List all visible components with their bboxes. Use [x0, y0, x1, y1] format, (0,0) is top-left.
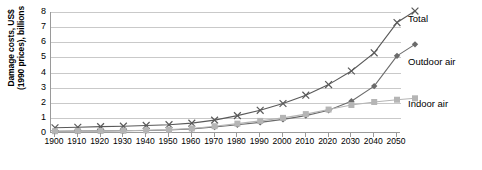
x-axis-tick-mark [54, 133, 55, 137]
x-axis-tick-mark [282, 133, 283, 137]
x-axis-tick-mark [168, 133, 169, 137]
chart-container: Damage costs, US$ (1990 prices), billion… [0, 0, 482, 170]
data-point-marker [280, 115, 286, 121]
y-axis-tick-label: 7 [20, 22, 46, 31]
data-point-marker [326, 107, 332, 113]
x-axis-tick-mark [236, 133, 237, 137]
legend-label-total: Total [408, 14, 428, 24]
y-axis-title-line-1: Damage costs, US$ [6, 0, 16, 108]
y-axis-tick-label: 4 [20, 68, 46, 77]
data-point-marker [412, 41, 418, 47]
x-axis-tick-mark [77, 133, 78, 137]
plot-area [50, 12, 400, 133]
x-axis-tick-mark [191, 133, 192, 137]
x-axis-tick-mark [396, 133, 397, 137]
data-point-marker [120, 128, 126, 134]
x-axis-tick-mark [259, 133, 260, 137]
series-total [52, 8, 419, 131]
x-axis-tick-mark [350, 133, 351, 137]
data-point-marker [143, 127, 149, 133]
data-point-marker [98, 128, 104, 134]
y-axis-tick-label: 2 [20, 98, 46, 107]
x-axis-tick-mark [328, 133, 329, 137]
y-axis-tick-label: 5 [20, 52, 46, 61]
series-lines [51, 12, 401, 133]
y-axis-tick-label: 8 [20, 7, 46, 16]
data-point-marker [234, 121, 240, 127]
data-point-marker [52, 128, 58, 134]
data-point-marker [303, 111, 309, 117]
data-point-marker [75, 128, 81, 134]
x-axis-tick-mark [145, 133, 146, 137]
x-axis-tick-labels: 1900191019201930194019501960197019801990… [0, 136, 482, 152]
y-axis-tick-label: 3 [20, 83, 46, 92]
x-axis-tick-mark [305, 133, 306, 137]
data-point-marker [257, 118, 263, 124]
data-point-marker [166, 127, 172, 133]
legend-label-outdoor-air: Outdoor air [408, 57, 456, 67]
data-point-marker [371, 99, 377, 105]
x-axis-tick-mark [100, 133, 101, 137]
legend-label-indoor-air: Indoor air [408, 99, 448, 109]
data-point-marker [394, 97, 400, 103]
x-axis-tick-mark [122, 133, 123, 137]
data-point-marker [212, 123, 218, 129]
x-axis-tick-mark [373, 133, 374, 137]
data-point-marker [189, 125, 195, 131]
x-axis-tick-label: 2050 [381, 136, 411, 146]
x-axis-tick-mark [214, 133, 215, 137]
y-axis-tick-label: 6 [20, 37, 46, 46]
series-indoor-air [52, 95, 418, 134]
y-axis-tick-label: 1 [20, 113, 46, 122]
series-outdoor-air [52, 41, 418, 134]
data-point-marker [348, 102, 354, 108]
